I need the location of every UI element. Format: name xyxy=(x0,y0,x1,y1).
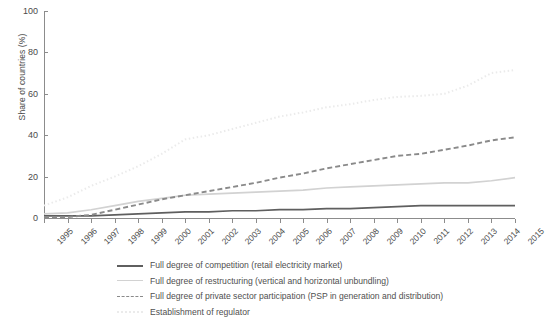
y-axis-tick-mark xyxy=(44,135,48,136)
y-axis-tick-mark xyxy=(44,218,48,219)
series-line-3 xyxy=(44,70,515,206)
legend-item-label: Full degree of restructuring (vertical a… xyxy=(150,277,389,286)
y-axis-tick-mark xyxy=(44,94,48,95)
legend-item-label: Full degree of private sector participat… xyxy=(150,292,443,301)
y-axis-tick-mark xyxy=(44,11,48,12)
legend-item[interactable]: Full degree of private sector participat… xyxy=(117,289,443,305)
series-line-0 xyxy=(44,206,515,216)
series-line-1 xyxy=(44,178,515,214)
legend-item[interactable]: Establishment of regulator xyxy=(117,305,443,319)
legend-item[interactable]: Full degree of competition (retail elect… xyxy=(117,258,443,274)
y-axis-tick-mark xyxy=(44,177,48,178)
legend-item[interactable]: Full degree of restructuring (vertical a… xyxy=(117,274,443,290)
legend-item-label: Establishment of regulator xyxy=(150,308,250,317)
y-axis-tick-mark xyxy=(44,52,48,53)
legend-item-label: Full degree of competition (retail elect… xyxy=(150,261,342,270)
chart-legend: Full degree of competition (retail elect… xyxy=(117,258,443,319)
